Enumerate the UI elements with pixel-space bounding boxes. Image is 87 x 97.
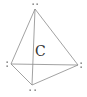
lone-pair-dot [35, 90, 36, 91]
vertex-bottom-dots [30, 90, 36, 91]
lone-pair-dot [30, 90, 31, 91]
lone-pair-dot [7, 62, 8, 63]
lone-pair-dot [7, 66, 8, 67]
lone-pair-dot [37, 4, 38, 5]
edge-left-bottom [11, 64, 32, 85]
tetrahedron-diagram: C [0, 0, 87, 97]
edge-top-left [11, 9, 35, 64]
edge-right-bottom [32, 65, 78, 85]
vertex-left-dots [7, 62, 8, 67]
lone-pair-dot [81, 63, 82, 64]
edge-left-right [11, 64, 78, 65]
lone-pair-dot [33, 4, 34, 5]
vertex-right-dots [81, 63, 82, 68]
lone-pair-dot [81, 67, 82, 68]
vertex-top-dots [33, 4, 38, 5]
center-atom-label: C [35, 43, 46, 59]
